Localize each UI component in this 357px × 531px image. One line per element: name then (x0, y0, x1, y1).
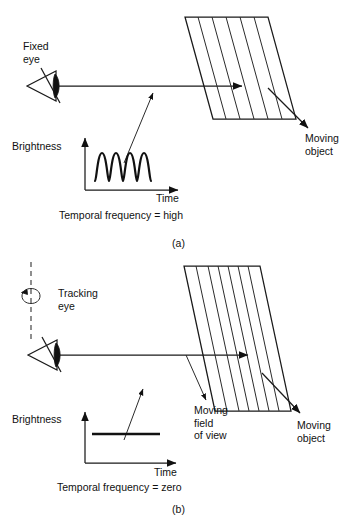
grating-a (185, 17, 296, 119)
moving-object-label-b-line2: object (297, 432, 325, 444)
fixed-eye-label-line2: eye (23, 53, 40, 65)
moving-fov-label-line3: of view (194, 429, 227, 441)
graph-axes-b (85, 412, 176, 463)
caption-a: Temporal frequency = high (59, 209, 183, 222)
time-axis-label-b: Time (154, 466, 177, 479)
fixed-eye-label-line1: Fixed (23, 40, 49, 52)
grating-b (184, 266, 291, 411)
moving-object-label-b: Movingobject (297, 419, 331, 444)
brightness-axis-label-a: Brightness (12, 140, 62, 153)
waveform-pointer-a (124, 93, 153, 163)
moving-object-label-a-line1: Moving (305, 132, 339, 144)
moving-object-label-b-line1: Moving (297, 419, 331, 431)
brightness-axis-label-b: Brightness (12, 413, 62, 426)
moving-fov-label-line1: Moving (194, 404, 228, 416)
tracking-eye-label-line2: eye (58, 300, 75, 312)
panel-tag-b: (b) (0, 503, 357, 516)
moving-field-of-view-label: Movingfieldof view (194, 404, 228, 442)
caption-b: Temporal frequency = zero (57, 481, 182, 494)
waveform-a (95, 153, 151, 181)
panel-tag-a: (a) (0, 237, 357, 250)
tracking-eye-label-line1: Tracking (58, 287, 98, 299)
moving-fov-arrow-b (186, 355, 206, 400)
fixed-eye-icon (27, 68, 60, 103)
figure-line-art (0, 0, 357, 531)
panel-a-art (27, 17, 308, 190)
figure-bottom-caption (2, 519, 355, 531)
waveform-pointer-b (124, 389, 143, 440)
tracking-eye-icon (28, 337, 61, 372)
figure-root: Fixedeye Movingobject Brightness Time Te… (0, 0, 357, 531)
moving-object-arrow-a (268, 88, 308, 128)
time-axis-label-a: Time (156, 192, 179, 205)
fixed-eye-label: Fixedeye (23, 40, 49, 65)
moving-fov-label-line2: field (194, 417, 213, 429)
tracking-eye-label: Trackingeye (58, 287, 98, 312)
moving-object-label-a-line2: object (305, 145, 333, 157)
moving-object-label-a: Movingobject (305, 132, 339, 157)
